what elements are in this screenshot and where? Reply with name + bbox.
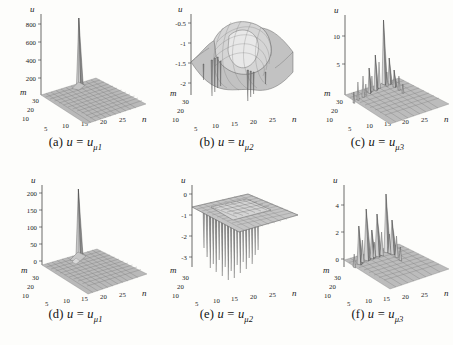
ytick-e-0: 10 bbox=[172, 292, 179, 299]
ytick-b-1: 20 bbox=[177, 107, 184, 114]
yaxis-label-a: m bbox=[20, 87, 27, 97]
panel-b-caption: (b) u = uμ2 bbox=[151, 135, 302, 152]
caption-a-lhs: u bbox=[67, 135, 73, 149]
xtick-a-1: 10 bbox=[62, 122, 69, 129]
xtick-e-4: 25 bbox=[269, 291, 276, 298]
xtick-c-4: 25 bbox=[421, 116, 428, 123]
caption-a-eq: = bbox=[76, 135, 83, 149]
xtick-f-3: 20 bbox=[402, 293, 409, 300]
ztick-a-3: 800 bbox=[26, 21, 37, 28]
caption-f-eq: = bbox=[378, 307, 385, 321]
panel-d-caption: (d) u = uμ1 bbox=[0, 307, 151, 324]
panel-c-plot: u 10 5 m n 30 20 10 5 10 15 20 25 bbox=[302, 0, 453, 142]
yaxis-label-b: m bbox=[170, 88, 177, 98]
surface-mesh-a bbox=[41, 18, 146, 124]
caption-c-lhs: u bbox=[369, 135, 375, 149]
xaxis-label-b: n bbox=[292, 114, 297, 124]
ztick-b-0: -0.5 bbox=[175, 20, 186, 27]
xtick-e-2: 15 bbox=[231, 295, 238, 302]
xtick-b-0: 5 bbox=[194, 125, 198, 132]
ztick-a-2: 600 bbox=[26, 39, 37, 46]
surface-mesh-d bbox=[42, 189, 147, 294]
caption-b-prefix: (b) bbox=[199, 135, 214, 149]
xtick-a-4: 25 bbox=[119, 116, 126, 123]
panel-a-plot: u 800 600 400 200 m n 30 20 10 5 10 bbox=[0, 0, 151, 142]
axes-e: u 0 -1 -2 -3 m n 30 20 10 5 10 bbox=[170, 175, 297, 307]
surface-svg-a: u 800 600 400 200 m n 30 20 10 5 10 bbox=[0, 0, 151, 142]
panel-d-plot: u 200 150 100 50 0 m n 30 20 10 bbox=[0, 172, 151, 314]
panel-b-plot: u -0.5 -1 -1.5 -2 m n 30 20 10 5 10 bbox=[151, 0, 302, 142]
surface-svg-f: u 4 2 0 m n 30 20 10 5 10 15 20 bbox=[302, 172, 453, 314]
xtick-a-0: 5 bbox=[44, 125, 48, 132]
yaxis-label-d: m bbox=[21, 265, 28, 275]
surface-mesh-f bbox=[344, 194, 449, 289]
ztick-f-0: 0 bbox=[336, 256, 340, 263]
xtick-d-0: 5 bbox=[45, 300, 49, 307]
xtick-b-3: 20 bbox=[250, 118, 257, 125]
zaxis-label-a: u bbox=[30, 4, 35, 14]
zaxis-label-f: u bbox=[333, 175, 338, 185]
caption-c-sub: μ3 bbox=[395, 142, 404, 152]
xtick-f-2: 15 bbox=[383, 295, 390, 302]
ztick-d-4: 200 bbox=[27, 190, 38, 197]
xtick-b-4: 25 bbox=[269, 116, 276, 123]
caption-a-prefix: (a) bbox=[49, 135, 63, 149]
panel-c-caption: (c) u = uμ3 bbox=[302, 135, 453, 152]
surface-svg-e: u 0 -1 -2 -3 m n 30 20 10 5 10 bbox=[151, 172, 302, 314]
surface-svg-b: u -0.5 -1 -1.5 -2 m n 30 20 10 5 10 bbox=[151, 0, 302, 142]
caption-d-eq: = bbox=[77, 307, 84, 321]
surface-mesh-c bbox=[345, 20, 449, 124]
surface-mesh-e bbox=[192, 194, 298, 280]
yaxis-label-f: m bbox=[323, 265, 330, 275]
zaxis-label-c: u bbox=[334, 5, 339, 15]
ztick-a-0: 200 bbox=[26, 75, 37, 82]
ztick-e-0: 0 bbox=[184, 191, 188, 198]
zaxis-label-d: u bbox=[31, 175, 36, 185]
ytick-a-1: 20 bbox=[27, 106, 34, 113]
caption-e-lhs: u bbox=[218, 307, 224, 321]
ytick-a-2: 30 bbox=[32, 97, 39, 104]
caption-e-eq: = bbox=[227, 307, 234, 321]
xtick-b-1: 10 bbox=[212, 122, 219, 129]
surface-mesh-b bbox=[191, 21, 293, 101]
xtick-b-2: 15 bbox=[231, 120, 238, 127]
ztick-e-1: -1 bbox=[181, 212, 187, 219]
ztick-b-1: -1 bbox=[180, 40, 186, 47]
xtick-d-3: 20 bbox=[100, 293, 107, 300]
ytick-e-2: 30 bbox=[182, 274, 189, 281]
caption-a-sub: μ1 bbox=[93, 142, 102, 152]
figure-multi-panel-surface-plots: u 800 600 400 200 m n 30 20 10 5 10 bbox=[0, 0, 453, 345]
xtick-e-3: 20 bbox=[250, 293, 257, 300]
surface-svg-d: u 200 150 100 50 0 m n 30 20 10 bbox=[0, 172, 151, 314]
yaxis-label-e: m bbox=[170, 265, 177, 275]
ztick-d-3: 150 bbox=[27, 207, 38, 214]
ytick-c-2: 30 bbox=[336, 98, 343, 105]
caption-f-sub: μ3 bbox=[395, 314, 404, 324]
panel-a: u 800 600 400 200 m n 30 20 10 5 10 bbox=[0, 0, 151, 172]
caption-b-sub: μ2 bbox=[245, 142, 254, 152]
ytick-e-1: 20 bbox=[177, 283, 184, 290]
panel-f-plot: u 4 2 0 m n 30 20 10 5 10 15 20 bbox=[302, 172, 453, 314]
xtick-d-4: 25 bbox=[119, 291, 126, 298]
ztick-e-2: -2 bbox=[181, 233, 187, 240]
xaxis-label-d: n bbox=[142, 288, 147, 298]
xtick-f-0: 5 bbox=[347, 300, 351, 307]
panel-a-caption: (a) u = uμ1 bbox=[0, 135, 151, 152]
panel-c: u 10 5 m n 30 20 10 5 10 15 20 25 bbox=[302, 0, 453, 172]
caption-d-sub: μ1 bbox=[94, 314, 103, 324]
xtick-c-1: 10 bbox=[366, 122, 373, 129]
ztick-a-1: 400 bbox=[26, 57, 37, 64]
ytick-d-0: 10 bbox=[22, 292, 29, 299]
panel-f-caption: (f) u = uμ3 bbox=[302, 307, 453, 324]
ytick-f-0: 10 bbox=[324, 292, 331, 299]
xtick-e-0: 5 bbox=[195, 300, 199, 307]
ztick-b-2: -1.5 bbox=[175, 60, 186, 67]
xtick-e-1: 10 bbox=[213, 297, 220, 304]
ztick-d-0: 0 bbox=[34, 258, 38, 265]
xtick-f-1: 10 bbox=[365, 297, 372, 304]
panel-b: u -0.5 -1 -1.5 -2 m n 30 20 10 5 10 bbox=[151, 0, 302, 172]
ytick-b-0: 10 bbox=[172, 116, 179, 123]
xaxis-label-e: n bbox=[292, 288, 297, 298]
xtick-d-2: 15 bbox=[81, 295, 88, 302]
ztick-e-3: -3 bbox=[181, 254, 187, 261]
